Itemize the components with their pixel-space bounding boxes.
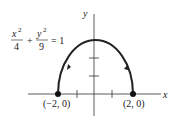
svg-text:2: 2: [43, 26, 47, 34]
arrow-icon: [67, 64, 71, 70]
arrow-icon: [124, 64, 128, 70]
point-left: [55, 91, 61, 97]
svg-text:4: 4: [14, 41, 19, 52]
svg-text:y: y: [36, 28, 42, 39]
y-axis-label: y: [82, 8, 88, 19]
equation: x 2 4 + y 2 9 = 1: [11, 26, 64, 52]
svg-text:+: +: [27, 35, 33, 46]
svg-text:9: 9: [39, 41, 44, 52]
parametric-ellipse-plot: y x (−2, 0) (2, 0) x 2 4 + y 2 9 = 1: [0, 0, 177, 119]
svg-text:x: x: [11, 28, 17, 39]
point-right: [130, 91, 136, 97]
point-left-label: (−2, 0): [43, 98, 70, 110]
svg-text:= 1: = 1: [51, 35, 64, 46]
x-axis-label: x: [162, 89, 168, 100]
point-right-label: (2, 0): [123, 98, 145, 110]
svg-text:2: 2: [18, 26, 22, 34]
